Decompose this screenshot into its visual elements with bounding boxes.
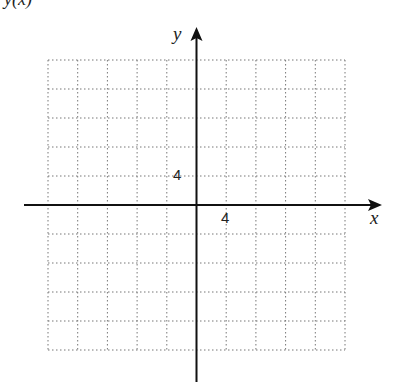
x-axis-label: x	[370, 208, 378, 227]
y-axis-label: y	[173, 24, 181, 43]
coordinate-grid	[0, 0, 407, 392]
x-tick-label: 4	[221, 210, 229, 225]
y-tick-label: 4	[173, 167, 181, 182]
